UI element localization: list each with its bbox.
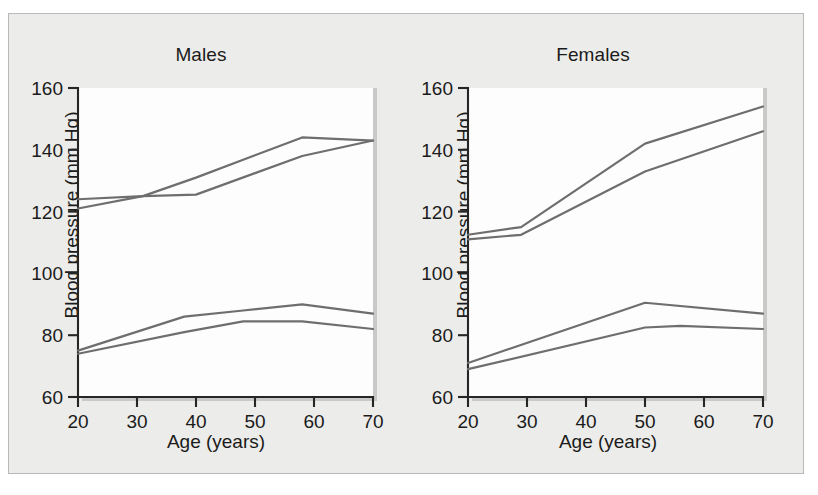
y-tick-label: 80 [42,325,63,346]
x-tick-label: 30 [126,411,147,432]
y-tick-label: 120 [421,202,453,223]
plot-background [78,88,373,397]
x-tick-label: 70 [362,411,383,432]
plot-area-males: 6080100120140160203040506070 [21,14,411,475]
y-tick-label: 60 [42,387,63,408]
y-tick-label: 140 [421,140,453,161]
x-tick-label: 40 [575,411,596,432]
y-tick-label: 60 [432,387,453,408]
y-tick-label: 140 [31,140,63,161]
y-tick-label: 160 [31,78,63,99]
y-tick-label: 80 [432,325,453,346]
x-tick-label: 70 [752,411,773,432]
figure-frame: Males Blood pressure (mm Hg) Age (years)… [8,13,804,474]
x-tick-label: 20 [457,411,478,432]
x-tick-label: 30 [516,411,537,432]
y-tick-label: 160 [421,78,453,99]
figure-root: Males Blood pressure (mm Hg) Age (years)… [0,0,818,495]
y-tick-label: 100 [31,263,63,284]
plot-area-females: 6080100120140160203040506070 [411,14,801,475]
plot-background [468,88,763,397]
x-tick-label: 60 [303,411,324,432]
x-tick-label: 60 [693,411,714,432]
x-tick-label: 40 [185,411,206,432]
y-tick-label: 120 [31,202,63,223]
x-tick-label: 20 [67,411,88,432]
x-tick-label: 50 [244,411,265,432]
panel-females: Females Blood pressure (mm Hg) Age (year… [411,14,801,475]
y-tick-label: 100 [421,263,453,284]
panel-males: Males Blood pressure (mm Hg) Age (years)… [21,14,411,475]
x-tick-label: 50 [634,411,655,432]
